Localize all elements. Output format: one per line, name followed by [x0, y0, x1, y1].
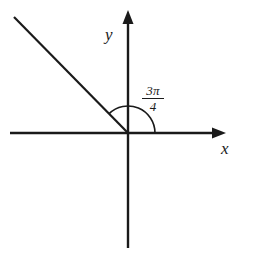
x-axis-label: x [221, 140, 229, 157]
angle-measure-label: 3π 4 [136, 84, 170, 113]
coordinate-plane-svg [0, 0, 258, 260]
angle-fraction-denominator: 4 [136, 99, 170, 113]
y-axis-label: y [105, 26, 113, 43]
angle-fraction-numerator: 3π [136, 84, 170, 98]
angle-diagram: y x 3π 4 [0, 0, 258, 260]
x-axis-arrowhead [212, 128, 226, 139]
y-axis-arrowhead [123, 10, 134, 24]
